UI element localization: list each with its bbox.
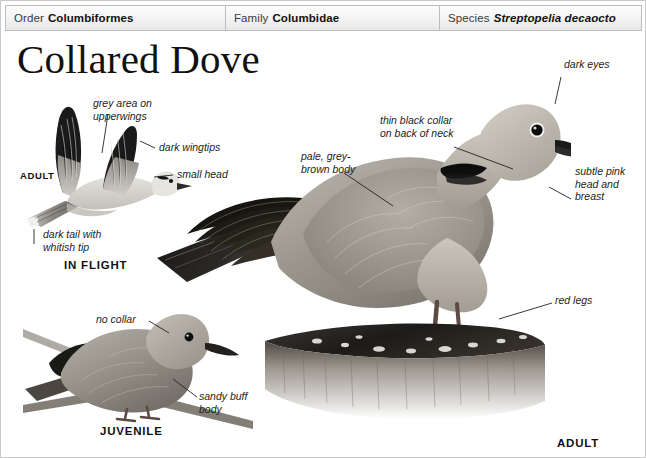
taxonomy-cell-family: Family Columbidae: [226, 6, 440, 30]
perch-stump-illustration: [259, 297, 549, 447]
family-key: Family: [234, 12, 268, 24]
eye: [531, 124, 542, 135]
eye-highlight: [533, 126, 536, 129]
annotation-dark-tail: dark tail with whitish tip: [43, 228, 101, 253]
order-value: Columbiformes: [48, 12, 134, 24]
family-value: Columbidae: [272, 12, 339, 24]
annotation-thin-black-collar: thin black collar on back of neck: [380, 114, 454, 139]
order-key: Order: [14, 12, 44, 24]
annotation-red-legs: red legs: [555, 294, 592, 307]
head: [480, 104, 560, 181]
annotation-subtle-pink: subtle pink head and breast: [575, 165, 625, 203]
taxonomy-bar: Order Columbiformes Family Columbidae Sp…: [5, 5, 642, 31]
tail-whitish-tip: [27, 216, 39, 227]
taxonomy-cell-species: Species Streptopelia decaocto: [440, 6, 641, 30]
plate-label-adult: ADULT: [557, 437, 599, 449]
taxonomy-cell-order: Order Columbiformes: [6, 6, 226, 30]
plate-label-juvenile: JUVENILE: [100, 425, 163, 437]
annotation-pale-grey-brown: pale, grey- brown body: [301, 150, 355, 175]
plate-label-flight-adult: ADULT: [20, 170, 54, 181]
eye: [185, 333, 194, 342]
annotation-dark-eyes: dark eyes: [564, 58, 610, 71]
bill: [205, 343, 239, 356]
species-key: Species: [448, 12, 490, 24]
field-guide-page: Order Columbiformes Family Columbidae Sp…: [0, 0, 646, 458]
annotation-dark-wingtips: dark wingtips: [159, 141, 220, 154]
species-value: Streptopelia decaocto: [494, 12, 616, 24]
annotation-small-head: small head: [177, 168, 228, 181]
annotation-sandy-buff: sandy buff body: [199, 390, 247, 415]
bird-illustration-juvenile: [23, 301, 253, 441]
annotation-grey-area: grey area on upperwings: [93, 97, 152, 122]
eye-highlight: [186, 334, 188, 336]
annotation-no-collar: no collar: [96, 313, 136, 326]
plate-label-in-flight: IN FLIGHT: [64, 259, 127, 271]
